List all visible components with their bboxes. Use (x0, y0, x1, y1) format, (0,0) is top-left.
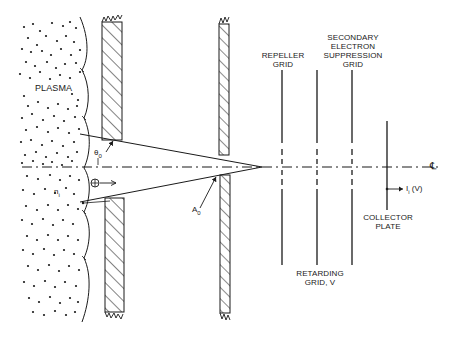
rear-wall-bottom (220, 175, 230, 320)
collector-plate-label: COLLECTOR PLATE (358, 213, 418, 231)
retarding-grid-label: RETARDING GRID, V (290, 269, 350, 287)
aperture-arrow (200, 177, 216, 208)
plasma-particles (19, 21, 81, 316)
cone-lower-line (80, 167, 262, 202)
plasma-label: PLASMA (35, 84, 72, 93)
theta-label: θ0 (94, 148, 102, 159)
sheath-boundary (80, 17, 89, 322)
suppression-grid-label: SECONDARY ELECTRON SUPPRESSION GRID (318, 33, 388, 69)
front-wall-top (102, 15, 122, 140)
current-label: Ii (V) (406, 184, 422, 195)
repeller-grid-label: REPELLER GRID (258, 51, 308, 69)
theta-arrow (106, 141, 113, 152)
centerline-label: ℄ (430, 160, 436, 171)
front-wall-bottom (105, 198, 124, 319)
density-label: ni (54, 187, 60, 198)
diagram-canvas: PLASMA θ0 ni A0 REPELLER GRID SECONDARY … (0, 0, 452, 340)
rear-wall-top (219, 17, 229, 155)
aperture-label: A0 (192, 205, 201, 216)
